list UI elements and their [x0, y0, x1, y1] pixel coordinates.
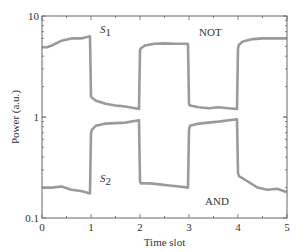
x-tick-label: 4	[235, 221, 241, 233]
power-vs-time-chart: 012345 0.1110 Time slot Power (a.u.) S1 …	[0, 0, 305, 252]
y-tick-label: 0.1	[25, 212, 39, 224]
annotation-not: NOT	[199, 26, 222, 38]
y-tick-label: 10	[28, 10, 40, 22]
plot-frame	[42, 16, 287, 218]
series-line-s2	[42, 119, 287, 193]
x-tick-label: 1	[88, 221, 94, 233]
x-tick-label: 5	[284, 221, 290, 233]
series-group	[42, 36, 287, 193]
annotation-and: AND	[205, 195, 229, 207]
x-tick-label: 3	[186, 221, 192, 233]
x-axis-title: Time slot	[144, 236, 185, 248]
x-tick-label: 0	[39, 221, 45, 233]
y-axis-title: Power (a.u.)	[9, 90, 22, 144]
annotation-s1: S1	[100, 23, 111, 38]
x-tick-labels: 012345	[39, 221, 290, 233]
y-tick-labels: 0.1110	[25, 10, 39, 224]
y-tick-label: 1	[34, 111, 40, 123]
series-line-s1	[42, 36, 287, 109]
axis-ticks	[42, 16, 287, 218]
annotation-s2: S2	[100, 172, 111, 187]
x-tick-label: 2	[137, 221, 143, 233]
